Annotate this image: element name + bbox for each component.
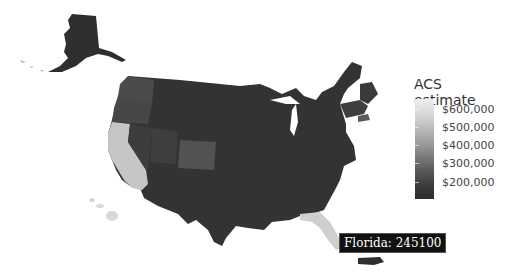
- territory-puerto-rico[interactable]: [358, 257, 384, 265]
- legend-label: $300,000: [442, 157, 495, 170]
- state-maine[interactable]: [360, 82, 378, 104]
- state-hawaii[interactable]: [89, 198, 118, 221]
- legend-tick-mark: [415, 145, 419, 146]
- state-alaska[interactable]: [48, 14, 126, 72]
- legend-label: $500,000: [442, 121, 495, 134]
- state-florida[interactable]: [300, 212, 342, 250]
- legend-tick-mark: [415, 163, 419, 164]
- legend-label: $200,000: [442, 176, 495, 189]
- legend-label: $600,000: [442, 103, 495, 116]
- state-colorado[interactable]: [178, 140, 216, 170]
- legend-tick-mark: [415, 127, 419, 128]
- legend-colorbar: [415, 99, 434, 199]
- legend-label: $400,000: [442, 139, 495, 152]
- state-utah[interactable]: [150, 128, 178, 164]
- state-massachusetts[interactable]: [358, 114, 370, 122]
- alaska-islands: [20, 60, 44, 72]
- legend-tick-mark: [415, 182, 419, 183]
- hover-tooltip: Florida: 245100: [339, 233, 446, 253]
- legend-tick-mark: [415, 109, 419, 110]
